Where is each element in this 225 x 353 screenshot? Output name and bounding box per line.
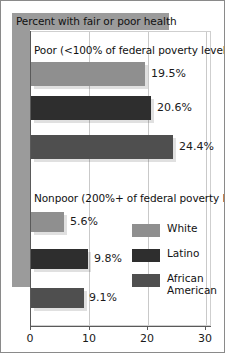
bar-nonpoor-african-american[interactable]	[31, 288, 84, 308]
legend-swatch-white	[132, 224, 160, 237]
x-tick-label-10: 10	[82, 332, 96, 345]
legend-label-latino: Latino	[167, 248, 199, 260]
bar-value-nonpoor-african-american: 9.1%	[89, 291, 117, 304]
legend-label-white: White	[167, 223, 198, 235]
bar-value-poor-african-american: 24.4%	[179, 140, 214, 153]
x-axis-line	[30, 326, 211, 327]
bar-poor-latino[interactable]	[31, 96, 151, 120]
legend-item-latino[interactable]: Latino	[132, 248, 217, 262]
bar-value-poor-white: 19.5%	[151, 67, 186, 80]
x-tick-20	[147, 326, 148, 330]
bar-value-nonpoor-white: 5.6%	[70, 215, 98, 228]
bar-poor-african-american[interactable]	[31, 135, 173, 159]
legend-label-african-american: African American	[167, 273, 217, 296]
chart-legend: White Latino African American	[132, 223, 217, 307]
x-tick-label-30: 30	[198, 332, 212, 345]
x-tick-label-0: 0	[27, 332, 34, 345]
group-label-nonpoor: Nonpoor (200%+ of federal poverty level)	[34, 192, 225, 204]
x-tick-label-20: 20	[140, 332, 154, 345]
group-label-poor: Poor (<100% of federal poverty level)	[34, 44, 225, 56]
legend-item-african-american[interactable]: African American	[132, 273, 217, 296]
decorative-side-band	[12, 27, 30, 287]
x-tick-0	[30, 326, 31, 330]
legend-item-white[interactable]: White	[132, 223, 217, 237]
bar-value-nonpoor-latino: 9.8%	[94, 252, 122, 265]
x-tick-10	[89, 326, 90, 330]
legend-swatch-latino	[132, 249, 160, 262]
x-tick-30	[205, 326, 206, 330]
bar-poor-white[interactable]	[31, 62, 145, 86]
bar-value-poor-latino: 20.6%	[157, 101, 192, 114]
chart-frame: Percent with fair or poor health 0 10 20…	[0, 0, 225, 353]
chart-title: Percent with fair or poor health	[12, 16, 176, 27]
chart-title-band: Percent with fair or poor health	[12, 13, 169, 30]
bar-nonpoor-white[interactable]	[31, 212, 64, 232]
legend-swatch-african-american	[132, 274, 160, 287]
bar-nonpoor-latino[interactable]	[31, 249, 88, 269]
